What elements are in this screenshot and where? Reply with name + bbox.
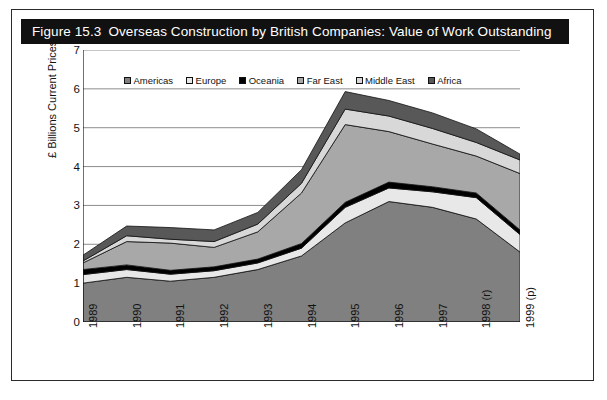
legend-swatch-icon	[186, 77, 193, 84]
x-tick-label: 1995	[349, 304, 361, 328]
legend-item-oceania: Oceania	[239, 75, 284, 86]
y-tick-label: 7	[56, 44, 80, 56]
legend-label: Far East	[307, 75, 343, 86]
area-chart-svg	[83, 50, 520, 322]
figure-title: Overseas Construction by British Compani…	[108, 24, 551, 39]
legend-item-europe: Europe	[186, 75, 226, 86]
x-tick-label: 1993	[262, 304, 274, 328]
legend-swatch-icon	[239, 77, 246, 84]
legend-swatch-icon	[428, 77, 435, 84]
y-tick-label: 4	[56, 161, 80, 173]
y-tick-label: 2	[56, 238, 80, 250]
chart-plot-area: £ Billions Current Prices 01234567 Ameri…	[12, 50, 595, 380]
figure-number: Figure 15.3	[32, 24, 101, 39]
y-tick-label: 6	[56, 83, 80, 95]
x-tick-label: 1992	[218, 304, 230, 328]
x-tick-label: 1994	[306, 304, 318, 328]
x-tick-label: 1999 (p)	[524, 287, 536, 328]
legend-item-far-east: Far East	[297, 75, 342, 86]
figure-title-bar: Figure 15.3Overseas Construction by Brit…	[21, 19, 569, 44]
legend-item-middle-east: Middle East	[356, 75, 415, 86]
x-tick-label: 1990	[131, 304, 143, 328]
legend-label: Middle East	[365, 75, 415, 86]
y-tick-label: 0	[56, 316, 80, 328]
legend-swatch-icon	[124, 77, 131, 84]
y-tick-label: 5	[56, 122, 80, 134]
x-tick-label: 1997	[437, 304, 449, 328]
legend-swatch-icon	[297, 77, 304, 84]
legend-label: Africa	[437, 75, 461, 86]
legend-label: Americas	[134, 75, 174, 86]
y-axis-ticks: 01234567	[56, 50, 80, 340]
chart-legend: AmericasEuropeOceaniaFar EastMiddle East…	[124, 75, 461, 86]
x-tick-label: 1998 (r)	[480, 289, 492, 328]
x-tick-label: 1991	[174, 304, 186, 328]
x-tick-label: 1996	[393, 304, 405, 328]
legend-swatch-icon	[356, 77, 363, 84]
legend-item-americas: Americas	[124, 75, 173, 86]
legend-item-africa: Africa	[428, 75, 462, 86]
x-tick-label: 1989	[87, 304, 99, 328]
x-axis-ticks: 1989199019911992199319941995199619971998…	[83, 320, 520, 400]
y-tick-label: 1	[56, 277, 80, 289]
figure-title-text: Figure 15.3Overseas Construction by Brit…	[21, 24, 552, 39]
legend-label: Oceania	[249, 75, 284, 86]
figure-container: Figure 15.3Overseas Construction by Brit…	[11, 9, 594, 381]
y-tick-label: 3	[56, 199, 80, 211]
legend-label: Europe	[196, 75, 227, 86]
